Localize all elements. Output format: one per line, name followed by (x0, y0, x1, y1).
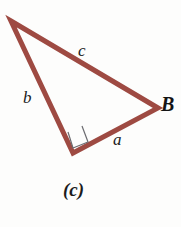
side-label-b: b (23, 89, 32, 106)
figure-caption: (c) (0, 180, 147, 199)
side-label-a: a (113, 131, 122, 148)
side-label-c: c (78, 42, 86, 59)
vertex-label-b: B (161, 94, 174, 114)
figure-container: c b a B (c) (0, 0, 181, 227)
